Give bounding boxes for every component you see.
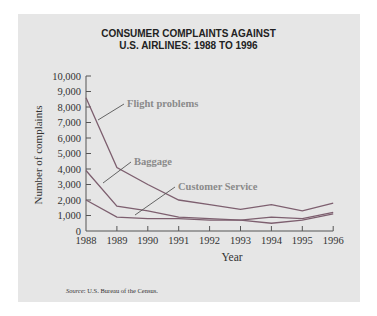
y-axis-label: Number of complaints — [32, 106, 44, 205]
series-line-0 — [86, 98, 333, 211]
y-tick-label: 3,000 — [57, 179, 81, 190]
x-tick-label: 1988 — [76, 235, 97, 246]
x-tick-label: 1993 — [230, 235, 251, 246]
x-tick-label: 1990 — [137, 235, 158, 246]
source-label: Source — [66, 287, 84, 294]
annotation-flight-problems: Flight problems — [127, 98, 198, 109]
y-tick-label: 7,000 — [57, 117, 81, 128]
series-line-1 — [86, 171, 333, 221]
x-tick-label: 1996 — [323, 235, 344, 246]
annotation-flight-problems-leader — [98, 104, 124, 120]
x-tick-label: 1992 — [199, 235, 220, 246]
y-tick-label: 1,000 — [57, 210, 81, 221]
x-tick-label: 1991 — [168, 235, 189, 246]
y-tick-label: 10,000 — [52, 71, 81, 82]
y-tick-label: 5,000 — [57, 148, 81, 159]
annotation-baggage: Baggage — [134, 156, 172, 167]
source-note: Source: U.S. Bureau of the Census. — [66, 287, 158, 294]
x-axis-label: Year — [221, 251, 242, 263]
source-text: : U.S. Bureau of the Census. — [84, 287, 158, 294]
line-chart: 01,0002,0003,0004,0005,0006,0007,0008,00… — [0, 0, 377, 316]
y-tick-label: 9,000 — [57, 86, 81, 97]
x-tick-label: 1994 — [261, 235, 283, 246]
x-tick-label: 1995 — [292, 235, 313, 246]
annotation-customer-service: Customer Service — [178, 181, 258, 192]
y-tick-label: 2,000 — [57, 195, 81, 206]
y-tick-label: 8,000 — [57, 102, 81, 113]
x-tick-label: 1989 — [106, 235, 127, 246]
annotation-customer-service-leader — [135, 187, 175, 215]
series-line-2 — [86, 200, 333, 223]
y-tick-label: 4,000 — [57, 164, 81, 175]
y-tick-label: 6,000 — [57, 133, 81, 144]
